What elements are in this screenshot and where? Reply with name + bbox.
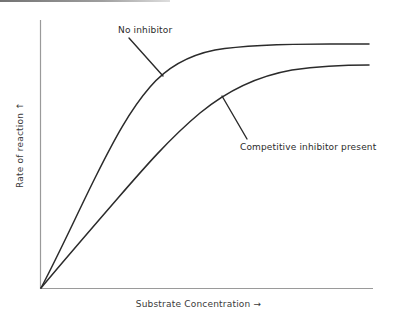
annotation-no-inhibitor: No inhibitor: [118, 25, 172, 35]
leader-line-competitive: [222, 96, 247, 139]
curve-no-inhibitor: [41, 44, 369, 288]
x-axis-title: Substrate Concentration →: [0, 299, 397, 309]
enzyme-kinetics-chart: [0, 0, 397, 316]
y-axis-title: Rate of reaction ↑: [15, 85, 25, 205]
leader-line-no-inhibitor: [129, 38, 163, 76]
chart-page: No inhibitor Competitive inhibitor prese…: [0, 0, 397, 316]
annotation-competitive-inhibitor: Competitive inhibitor present: [240, 142, 376, 152]
curve-competitive-inhibitor: [41, 65, 369, 288]
